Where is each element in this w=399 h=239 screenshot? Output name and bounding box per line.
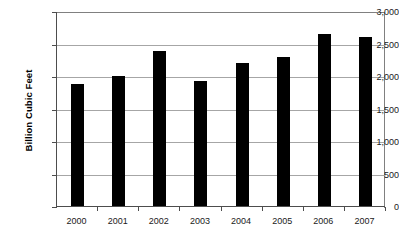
x-tick-label: 2003 (178, 216, 222, 226)
bar (194, 81, 207, 206)
y-tick-mark (52, 207, 57, 208)
x-tick-mark (138, 207, 139, 211)
x-tick-mark (344, 207, 345, 211)
bar (277, 57, 290, 206)
bar (236, 63, 249, 206)
x-tick-label: 2007 (342, 216, 386, 226)
y-axis-title: Billion Cubic Feet (23, 36, 34, 186)
x-tick-label: 2002 (137, 216, 181, 226)
x-tick-label: 2005 (260, 216, 304, 226)
x-tick-mark (262, 207, 263, 211)
x-tick-mark (303, 207, 304, 211)
plot-area (56, 12, 385, 207)
bar (112, 76, 125, 206)
x-tick-mark (97, 207, 98, 211)
x-tick-label: 2000 (55, 216, 99, 226)
bar (359, 37, 372, 206)
x-tick-label: 2004 (219, 216, 263, 226)
x-tick-mark (385, 207, 386, 211)
bar (71, 84, 84, 206)
x-tick-label: 2006 (301, 216, 345, 226)
bar (318, 34, 331, 206)
x-tick-mark (179, 207, 180, 211)
x-tick-label: 2001 (96, 216, 140, 226)
chart-page: Billion Cubic Feet 05001,0001,5002,0002,… (0, 0, 399, 239)
x-tick-mark (221, 207, 222, 211)
bar (153, 51, 166, 206)
